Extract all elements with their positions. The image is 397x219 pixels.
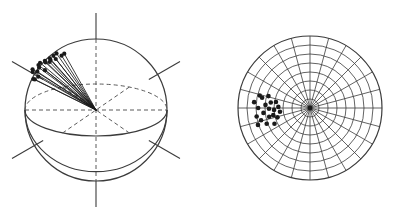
diagonal-axis-right-stub (12, 141, 43, 159)
polar-center-marker (308, 106, 313, 111)
projected-point (256, 123, 261, 128)
polar-spoke-45 (310, 57, 361, 108)
polar-spoke-315 (310, 108, 361, 159)
orientation-vector-tip (51, 54, 55, 58)
orientation-vector-line (38, 65, 96, 110)
polar-spoke-105 (291, 38, 310, 108)
polar-spoke-120 (274, 46, 310, 108)
polar-spoke-60 (310, 46, 346, 108)
orientation-vector-tip (36, 75, 40, 79)
polar-spoke-15 (310, 89, 380, 108)
polar-spoke-135 (259, 57, 310, 108)
polar-spoke-75 (310, 38, 329, 108)
orientation-vector-tip (36, 63, 40, 67)
projected-point (259, 118, 264, 123)
orientation-vector-tip (31, 77, 35, 81)
projected-point (268, 100, 273, 105)
projected-point (272, 108, 277, 113)
projected-point (274, 100, 279, 105)
projected-point (264, 121, 269, 126)
orientation-vector-tip (44, 60, 48, 64)
polar-spoke-30 (310, 72, 372, 108)
projected-point (271, 113, 276, 118)
orientation-vector-tip (62, 52, 66, 56)
polar-net-panel (238, 36, 382, 180)
projected-point (267, 114, 272, 119)
projected-point (257, 93, 262, 98)
orientation-vector-tip (35, 70, 39, 74)
spherical-projection-panel (12, 13, 180, 207)
projected-point (276, 105, 281, 110)
projected-point (252, 100, 257, 105)
orientation-vector-tip (48, 58, 52, 62)
projected-point (278, 109, 283, 114)
diagonal-axis-right-stub (149, 62, 180, 80)
polar-spoke-300 (310, 108, 346, 170)
polar-spoke-150 (248, 72, 310, 108)
projected-point (267, 106, 272, 111)
orientation-vector-group (30, 51, 96, 110)
polar-spoke-255 (291, 108, 310, 178)
polar-spoke-285 (310, 108, 329, 178)
polar-spoke-330 (310, 108, 372, 144)
projected-point (261, 111, 266, 116)
projected-point (254, 114, 259, 119)
polar-spoke-225 (259, 108, 310, 159)
projected-point (266, 94, 271, 99)
projected-point (263, 103, 268, 108)
polar-spoke-165 (240, 89, 310, 108)
projected-point (275, 115, 280, 120)
diagonal-axis-left-stub (149, 141, 180, 159)
figure-root (0, 0, 397, 219)
projected-point (256, 106, 261, 111)
polar-spoke-345 (310, 108, 380, 127)
projected-point (272, 122, 277, 127)
figure-canvas (0, 0, 397, 219)
orientation-vector-tip (31, 70, 35, 74)
